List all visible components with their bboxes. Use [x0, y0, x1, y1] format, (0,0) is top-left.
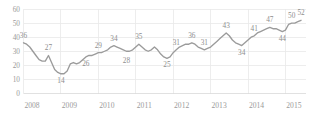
data-point-label: 36: [20, 31, 28, 40]
data-point-label: 35: [135, 32, 143, 41]
data-point-label: 26: [82, 59, 90, 68]
x-axis-tick-label: 2014: [249, 101, 264, 110]
x-axis-tick-label: 2008: [24, 101, 39, 110]
x-axis-tick-label: 2010: [99, 101, 114, 110]
data-point-label: 27: [45, 43, 53, 52]
data-point-label: 29: [95, 41, 103, 50]
y-axis-tick-label: 30: [13, 47, 21, 56]
data-point-label: 34: [110, 34, 118, 43]
data-point-label: 41: [251, 24, 259, 33]
data-series-layer: [24, 20, 302, 74]
data-point-label: 47: [266, 15, 274, 24]
data-point-label: 52: [297, 8, 305, 17]
y-axis-tick-label: 60: [13, 5, 21, 14]
data-point-label: 50: [288, 11, 296, 20]
y-axis-tick-label: 0: [16, 89, 20, 98]
grid-layer: [24, 9, 307, 94]
data-point-label: 14: [57, 76, 65, 85]
data-point-label: 25: [163, 60, 171, 69]
x-axis-tick-labels: 20082009201020112012201320142015: [24, 101, 301, 110]
y-axis-tick-labels: 0102030405060: [13, 5, 21, 99]
x-axis-tick-label: 2015: [286, 101, 301, 110]
y-axis-tick-label: 20: [13, 61, 21, 70]
x-axis-tick-label: 2011: [137, 101, 152, 110]
data-point-label: 31: [173, 38, 181, 47]
series-line: [24, 20, 302, 74]
data-point-label: 43: [223, 21, 231, 30]
data-point-label: 44: [279, 34, 287, 43]
y-axis-tick-label: 50: [13, 19, 21, 28]
x-axis-tick-label: 2013: [211, 101, 226, 110]
line-chart: 0102030405060 20082009201020112012201320…: [0, 0, 309, 115]
x-axis-tick-label: 2009: [62, 101, 77, 110]
data-point-label: 36: [188, 31, 196, 40]
data-point-label: 31: [201, 38, 209, 47]
x-axis-tick-label: 2012: [174, 101, 189, 110]
chart-canvas: 0102030405060 20082009201020112012201320…: [0, 0, 309, 115]
data-point-label: 28: [123, 56, 131, 65]
data-point-label: 34: [238, 48, 246, 57]
y-axis-tick-label: 10: [13, 75, 21, 84]
